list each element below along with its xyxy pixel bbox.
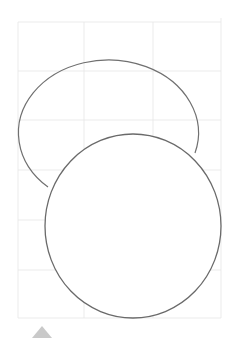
sketch-canvas <box>0 0 236 338</box>
triangle-marker-icon <box>32 326 52 338</box>
front-circle-outline <box>45 134 221 318</box>
